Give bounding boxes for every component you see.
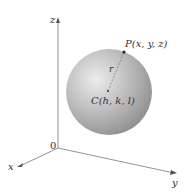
point-p [123, 51, 126, 54]
y-axis-label: y [172, 178, 178, 188]
point-c [107, 90, 109, 92]
sphere-diagram: z 0 x y P(x, y, z) r C(h, k, l) [0, 0, 190, 193]
sphere [66, 49, 152, 135]
x-axis-label: x [8, 162, 14, 172]
z-axis-label: z [50, 15, 55, 25]
y-axis [58, 148, 174, 173]
y-arrow-icon [170, 170, 177, 175]
x-arrow-icon [17, 163, 23, 167]
point-p-label: P(x, y, z) [125, 39, 167, 49]
z-arrow-icon [56, 17, 60, 23]
center-label: C(h, k, l) [91, 96, 135, 106]
origin-label: 0 [50, 141, 56, 151]
radius-label: r [109, 65, 113, 74]
